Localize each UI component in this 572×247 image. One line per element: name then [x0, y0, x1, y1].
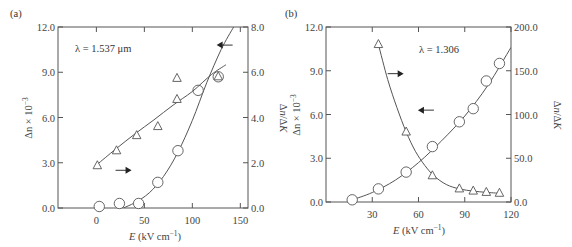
panel-b-y-right-tick-label: 0.0 — [514, 197, 527, 208]
panel-a-x-tick-label: 150 — [232, 215, 248, 226]
panel-b-y-right-tick-label: 200.0 — [514, 22, 538, 33]
panel-b-y-right-tick-label: 150.0 — [514, 66, 538, 77]
panel-a-wavelength-annotation: λ = 1.537 μm — [75, 43, 131, 54]
panel-a-x-tick-label: 100 — [184, 215, 200, 226]
panel-b-wavelength-annotation: λ = 1.306 — [419, 44, 459, 55]
panel-a-y-right-axis-title: Δn/ΔK — [278, 104, 289, 134]
panel-a-triangle-point — [173, 94, 182, 102]
panel-a: (a) λ = 1.537 μm 0501001500.03.06.09.012… — [10, 8, 289, 243]
panel-b-circle-point — [347, 195, 357, 205]
panel-a-y-left-axis-title: Δn × 10−3 — [21, 97, 34, 139]
figure: (a) λ = 1.537 μm 0501001500.03.06.09.012… — [0, 0, 572, 247]
panel-b-triangle-point — [402, 127, 411, 135]
panel-b-label: (b) — [285, 8, 298, 20]
panel-b-arrow-left — [418, 107, 434, 114]
panel-a-y-right-tick-label: 6.0 — [251, 67, 264, 78]
panel-b-circle-point — [454, 117, 464, 127]
panel-b-y-left-tick-label: 6.0 — [310, 110, 323, 121]
panel-a-y-left-tick-label: 0.0 — [42, 203, 55, 214]
panel-b-y-right-tick-label: 50.0 — [514, 153, 532, 164]
panel-a-circle-fit-curve — [123, 27, 233, 208]
arrow-head — [398, 70, 404, 77]
panel-b-x-tick-label: 30 — [367, 209, 378, 220]
panel-b: (b) λ = 1.306 3060901200.03.06.09.012.00… — [285, 8, 563, 237]
panel-a-circle-point — [153, 177, 163, 187]
panel-a-triangle-point — [154, 122, 163, 130]
panel-a-circle-point — [173, 145, 183, 155]
panel-a-y-right-tick-label: 0.0 — [251, 203, 264, 214]
panel-b-y-left-tick-label: 12.0 — [305, 22, 323, 33]
panel-a-y-left-tick-label: 6.0 — [42, 113, 55, 124]
panel-b-circle-point — [494, 58, 504, 68]
panel-b-y-left-axis-title: Δn × 10−3 — [289, 94, 302, 136]
panel-a-x-tick-label: 50 — [139, 215, 150, 226]
panel-b-y-left-tick-label: 0.0 — [310, 197, 323, 208]
panel-a-circle-point — [133, 198, 143, 208]
panel-a-circle-point — [94, 201, 104, 211]
panel-b-y-left-tick-label: 3.0 — [310, 153, 323, 164]
panel-b-x-tick-label: 90 — [460, 209, 471, 220]
panel-b-y-right-tick-label: 100.0 — [514, 110, 538, 121]
panel-a-arrow-right — [116, 167, 132, 174]
panel-a-x-tick-label: 0 — [94, 215, 99, 226]
panel-b-circle-point — [468, 103, 478, 113]
panel-b-triangle-point — [469, 186, 478, 194]
panel-a-circle-point — [114, 198, 124, 208]
panel-b-circle-point — [481, 76, 491, 86]
panel-b-arrow-right — [388, 70, 404, 77]
panel-b-circle-point — [401, 167, 411, 177]
panel-a-label: (a) — [10, 8, 22, 20]
arrow-head — [217, 42, 223, 49]
arrow-head — [126, 167, 132, 174]
panel-b-triangle-point — [428, 171, 437, 179]
panel-b-x-tick-label: 120 — [503, 209, 519, 220]
panel-b-triangle-fit-curve — [378, 45, 499, 194]
panel-b-circle-point — [373, 184, 383, 194]
panel-a-y-right-tick-label: 8.0 — [251, 22, 264, 33]
arrow-head — [418, 107, 424, 114]
panel-a-y-right-tick-label: 4.0 — [251, 113, 264, 124]
panel-a-y-left-tick-label: 12.0 — [37, 22, 55, 33]
panel-a-y-left-tick-label: 9.0 — [42, 67, 55, 78]
panel-b-y-left-tick-label: 9.0 — [310, 66, 323, 77]
panel-b-circle-point — [427, 141, 437, 151]
panel-a-triangle-point — [173, 73, 182, 81]
panel-a-y-left-tick-label: 3.0 — [42, 158, 55, 169]
panel-b-x-axis-title: E (kV cm−1) — [392, 223, 446, 237]
panel-b-y-right-axis-title: Δn/ΔK — [552, 101, 563, 131]
panel-a-x-axis-title: E (kV cm−1) — [128, 229, 182, 243]
panel-a-y-right-tick-label: 2.0 — [251, 158, 264, 169]
panel-b-x-tick-label: 60 — [413, 209, 424, 220]
panel-a-triangle-point — [112, 146, 121, 154]
panel-b-triangle-point — [374, 40, 383, 48]
panel-b-triangle-point — [482, 187, 491, 195]
panel-b-triangle-point — [495, 188, 504, 196]
